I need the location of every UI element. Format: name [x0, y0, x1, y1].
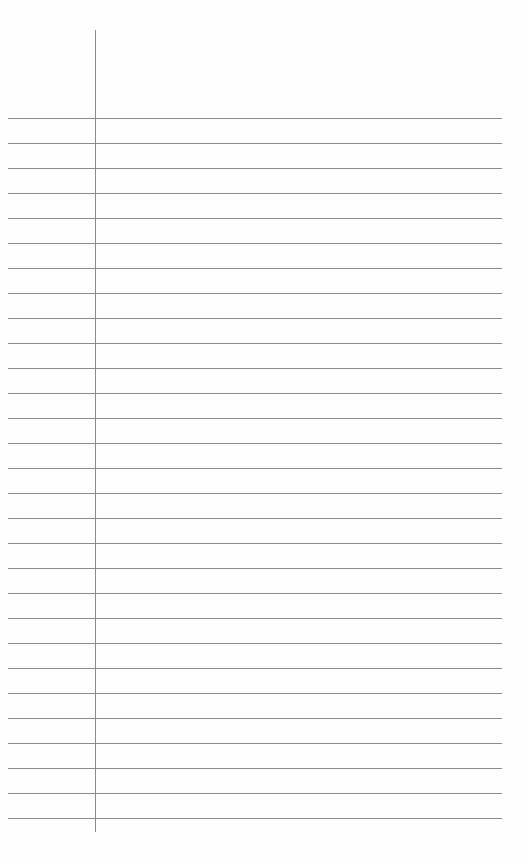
ruled-line [8, 343, 502, 344]
ruled-line [8, 493, 502, 494]
ruled-line [8, 218, 502, 219]
ruled-line [8, 168, 502, 169]
ruled-line [8, 443, 502, 444]
ruled-line [8, 543, 502, 544]
ruled-line [8, 118, 502, 119]
lined-paper-sheet [0, 0, 528, 864]
ruled-line [8, 793, 502, 794]
ruled-line [8, 368, 502, 369]
ruled-line [8, 418, 502, 419]
ruled-line [8, 268, 502, 269]
ruled-line [8, 568, 502, 569]
ruled-line [8, 693, 502, 694]
ruled-line [8, 518, 502, 519]
ruled-line [8, 293, 502, 294]
ruled-line [8, 243, 502, 244]
ruled-line [8, 318, 502, 319]
ruled-line [8, 768, 502, 769]
ruled-line [8, 718, 502, 719]
ruled-line [8, 193, 502, 194]
ruled-line [8, 818, 502, 819]
ruled-line [8, 393, 502, 394]
ruled-line [8, 593, 502, 594]
ruled-line [8, 143, 502, 144]
ruled-line [8, 643, 502, 644]
ruled-line [8, 618, 502, 619]
margin-line [95, 30, 96, 832]
ruled-line [8, 743, 502, 744]
ruled-line [8, 668, 502, 669]
ruled-line [8, 468, 502, 469]
